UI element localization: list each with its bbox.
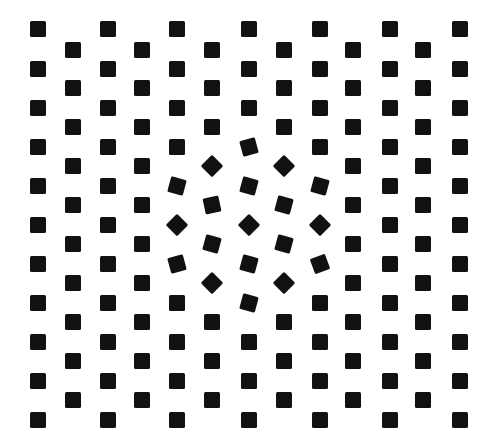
square-shape [452,217,468,233]
square-shape [309,214,332,237]
square-shape [134,197,150,213]
square-shape [134,158,150,174]
square-shape [65,119,81,135]
square-shape [452,139,468,155]
square-shape [134,275,150,291]
square-shape [415,42,431,58]
square-shape [415,314,431,330]
square-shape [65,275,81,291]
square-shape [169,412,185,428]
square-shape [310,176,330,196]
square-shape [65,236,81,252]
square-shape [312,100,328,116]
square-shape [204,314,220,330]
square-shape [100,139,116,155]
square-shape [273,155,296,178]
square-shape [345,236,361,252]
square-shape [100,100,116,116]
square-shape [276,80,292,96]
square-shape [65,158,81,174]
square-shape [276,42,292,58]
square-shape [169,139,185,155]
square-shape [169,100,185,116]
square-shape [345,275,361,291]
square-shape [169,21,185,37]
square-shape [65,314,81,330]
square-shape [382,256,398,272]
square-shape [30,295,46,311]
square-shape [241,100,257,116]
square-shape [345,314,361,330]
square-shape [415,236,431,252]
square-shape [239,293,259,313]
square-shape [100,334,116,350]
square-shape [415,80,431,96]
square-shape [345,353,361,369]
square-shape [65,80,81,96]
square-shape [452,256,468,272]
square-shape [100,217,116,233]
square-shape [452,334,468,350]
square-shape [415,275,431,291]
square-shape [30,256,46,272]
square-shape [30,334,46,350]
square-shape [30,217,46,233]
square-shape [312,295,328,311]
square-shape [382,178,398,194]
square-shape [274,195,294,215]
square-shape [382,334,398,350]
square-shape [452,178,468,194]
square-shape [65,197,81,213]
square-shape [382,139,398,155]
square-shape [312,21,328,37]
illusion-canvas [0,0,494,444]
square-shape [134,236,150,252]
square-shape [382,61,398,77]
square-shape [134,353,150,369]
square-shape [204,392,220,408]
square-shape [241,373,257,389]
square-shape [310,254,331,275]
square-shape [239,254,259,274]
square-shape [415,392,431,408]
square-shape [134,314,150,330]
square-shape [415,197,431,213]
square-shape [167,176,187,196]
square-shape [100,178,116,194]
square-shape [452,100,468,116]
square-shape [134,119,150,135]
square-shape [452,21,468,37]
square-shape [382,100,398,116]
square-shape [202,234,222,254]
square-shape [452,412,468,428]
square-shape [452,373,468,389]
square-shape [241,61,257,77]
square-shape [312,139,328,155]
square-shape [382,412,398,428]
square-shape [204,119,220,135]
square-shape [204,80,220,96]
square-shape [100,21,116,37]
square-shape [345,80,361,96]
square-shape [345,42,361,58]
square-shape [30,100,46,116]
square-shape [276,353,292,369]
square-shape [169,61,185,77]
square-shape [100,256,116,272]
square-shape [452,295,468,311]
square-shape [65,392,81,408]
square-shape [312,334,328,350]
square-shape [65,42,81,58]
square-shape [201,155,224,178]
square-shape [273,272,296,295]
square-shape [239,176,259,196]
square-shape [134,42,150,58]
square-shape [169,334,185,350]
square-shape [134,80,150,96]
square-shape [312,61,328,77]
square-shape [415,119,431,135]
square-shape [274,234,294,254]
square-shape [30,412,46,428]
square-shape [169,373,185,389]
square-shape [167,254,187,274]
